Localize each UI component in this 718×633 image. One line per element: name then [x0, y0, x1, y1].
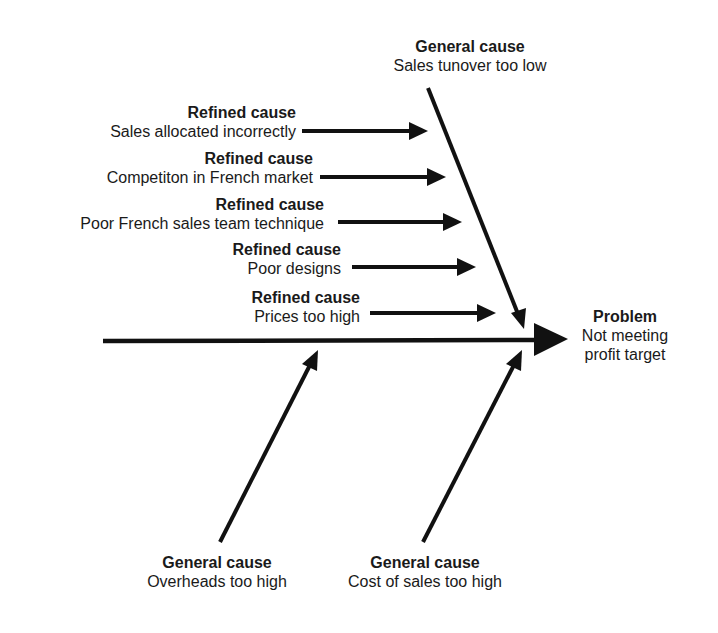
problem-text-line2: profit target [570, 345, 680, 364]
refined-arrow-3 [338, 213, 462, 231]
arrowhead-icon [443, 213, 462, 231]
refined-cause-text: Competiton in French market [107, 168, 313, 187]
refined-cause-text: Poor designs [233, 259, 341, 278]
general-cause-label-sales-turnover: General cause Sales tunover too low [370, 37, 570, 75]
general-cause-title: General cause [370, 37, 570, 56]
arrowhead-icon [511, 308, 526, 329]
refined-arrow-1 [302, 122, 428, 140]
refined-cause-text: Prices too high [252, 307, 360, 326]
arrowhead-icon [409, 122, 428, 140]
bone-overheads [220, 350, 318, 542]
refined-cause-label-3: Refined cause Poor French sales team tec… [80, 195, 324, 233]
arrowhead-icon [477, 304, 496, 322]
refined-arrow-2 [320, 168, 446, 186]
general-cause-text: Sales tunover too low [370, 56, 570, 75]
refined-cause-title: Refined cause [110, 103, 296, 122]
refined-arrow-4 [352, 258, 476, 276]
main-arrowhead-icon [534, 323, 568, 356]
general-cause-text: Cost of sales too high [325, 572, 525, 591]
refined-cause-label-5: Refined cause Prices too high [252, 288, 360, 326]
arrowhead-icon [427, 168, 446, 186]
problem-text-line1: Not meeting [570, 326, 680, 345]
main-spine [103, 323, 568, 356]
general-cause-title: General cause [117, 553, 317, 572]
refined-cause-label-1: Refined cause Sales allocated incorrectl… [110, 103, 296, 141]
refined-cause-title: Refined cause [107, 149, 313, 168]
general-cause-title: General cause [325, 553, 525, 572]
refined-arrow-5 [370, 304, 496, 322]
refined-cause-label-4: Refined cause Poor designs [233, 240, 341, 278]
refined-cause-title: Refined cause [233, 240, 341, 259]
problem-label: Problem Not meeting profit target [570, 307, 680, 364]
arrowhead-icon [457, 258, 476, 276]
refined-cause-text: Sales allocated incorrectly [110, 122, 296, 141]
problem-title: Problem [570, 307, 680, 326]
bone-sales-turnover [428, 88, 526, 329]
general-cause-label-overheads: General cause Overheads too high [117, 553, 317, 591]
refined-cause-text: Poor French sales team technique [80, 214, 324, 233]
refined-cause-title: Refined cause [80, 195, 324, 214]
refined-cause-label-2: Refined cause Competiton in French marke… [107, 149, 313, 187]
general-cause-text: Overheads too high [117, 572, 317, 591]
general-cause-label-cost-of-sales: General cause Cost of sales too high [325, 553, 525, 591]
bone-cost-of-sales [423, 350, 522, 542]
refined-cause-title: Refined cause [252, 288, 360, 307]
